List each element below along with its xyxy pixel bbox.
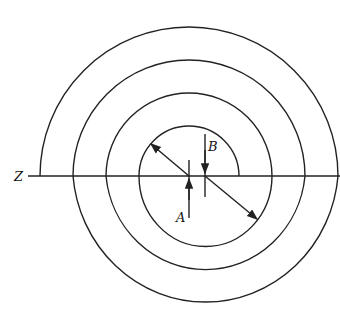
label-z: Z xyxy=(13,169,24,184)
radius-arrow-lower xyxy=(205,176,257,219)
spiral-diagram: Z A B xyxy=(0,0,340,320)
label-a: A xyxy=(175,210,185,225)
label-b: B xyxy=(207,139,218,154)
upper-arc-4 xyxy=(40,27,338,176)
radius-arrow-upper xyxy=(151,144,189,176)
